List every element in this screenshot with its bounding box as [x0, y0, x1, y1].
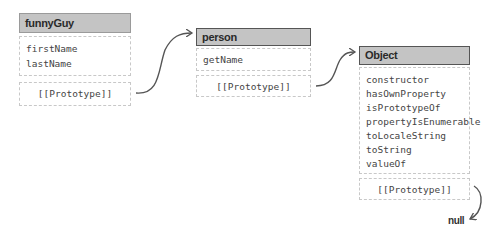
arrow-funnyguy-to-person	[136, 33, 192, 93]
arrow-object-to-null	[470, 186, 481, 219]
connector-arrows	[0, 0, 501, 239]
arrow-person-to-object	[316, 52, 355, 86]
